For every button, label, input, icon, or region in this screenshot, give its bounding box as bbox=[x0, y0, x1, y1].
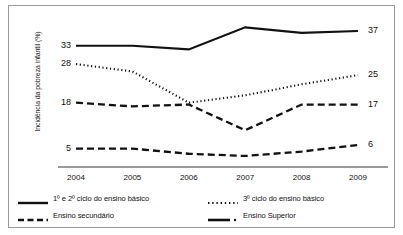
value-label-right-2: 17 bbox=[368, 99, 392, 109]
x-tick-label-2007: 2007 bbox=[225, 173, 265, 182]
legend-swatch-dotted-icon bbox=[208, 194, 238, 204]
chart-figure: Incidência da pobreza infantil (%) 33 28… bbox=[0, 0, 403, 235]
value-label-left-1: 28 bbox=[49, 58, 71, 68]
value-label-left-2: 18 bbox=[49, 97, 71, 107]
chart-lines bbox=[58, 12, 390, 170]
legend-swatch-dashed-icon bbox=[18, 211, 48, 221]
value-label-right-0: 37 bbox=[368, 25, 392, 35]
legend-item-0[interactable]: 1º e 2º ciclo do ensino básico bbox=[18, 192, 149, 205]
series-line-0 bbox=[76, 27, 358, 49]
legend-item-2[interactable]: Ensino secundário bbox=[18, 209, 114, 222]
legend-swatch-dashdot-icon bbox=[208, 211, 238, 221]
legend-swatch-solid-icon bbox=[18, 194, 48, 204]
legend-item-1[interactable]: 3º ciclo do ensino básico bbox=[208, 192, 324, 205]
x-tick-label-2008: 2008 bbox=[282, 173, 322, 182]
legend-item-3[interactable]: Ensino Superior bbox=[208, 209, 296, 222]
value-label-right-1: 25 bbox=[368, 69, 392, 79]
legend-label-2: Ensino secundário bbox=[53, 211, 114, 220]
chart-legend: 1º e 2º ciclo do ensino básico 3º ciclo … bbox=[18, 192, 386, 224]
value-label-right-3: 6 bbox=[368, 139, 392, 149]
series-line-1 bbox=[76, 64, 358, 103]
x-tick-label-2006: 2006 bbox=[169, 173, 209, 182]
legend-label-0: 1º e 2º ciclo do ensino básico bbox=[53, 194, 149, 203]
legend-label-1: 3º ciclo do ensino básico bbox=[243, 194, 324, 203]
series-line-2 bbox=[76, 103, 358, 131]
legend-label-3: Ensino Superior bbox=[243, 211, 296, 220]
series-line-3 bbox=[76, 145, 358, 156]
x-tick-label-2005: 2005 bbox=[112, 173, 152, 182]
x-tick-label-2009: 2009 bbox=[338, 173, 378, 182]
value-label-left-3: 5 bbox=[49, 143, 71, 153]
value-label-left-0: 33 bbox=[49, 40, 71, 50]
plot-area: 33 28 18 5 37 25 17 6 2004 2005 2006 200… bbox=[58, 12, 390, 170]
y-axis-title: Incidência da pobreza infantil (%) bbox=[34, 12, 41, 152]
x-tick-label-2004: 2004 bbox=[56, 173, 96, 182]
